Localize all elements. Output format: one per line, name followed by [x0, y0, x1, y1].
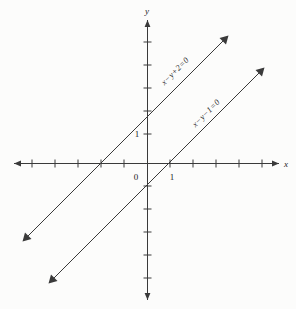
line-x-minus-y-plus-2: [23, 36, 229, 242]
x-axis-arrow-left: [14, 161, 21, 167]
y-axis-arrow-up: [145, 20, 151, 27]
line-1-segment: [25, 38, 226, 239]
line-1-equation-label: x−y+2=0: [158, 55, 191, 88]
graph-canvas: 0 1 1 x y x−y+2=0 x−y−1=0: [0, 0, 296, 309]
x-unit-tick-label: 1: [170, 172, 175, 182]
line-2-equation-label: x−y−1=0: [189, 97, 222, 130]
x-axis-label: x: [283, 159, 288, 169]
y-axis-arrow-down: [145, 293, 151, 300]
y-axis-label: y: [144, 6, 149, 16]
y-axis: [144, 20, 152, 300]
line-x-minus-y-minus-1: [49, 68, 265, 284]
line-2-segment: [51, 70, 262, 281]
coordinate-plane-figure: 0 1 1 x y x−y+2=0 x−y−1=0: [0, 0, 296, 309]
x-axis: [14, 160, 279, 168]
origin-label: 0: [134, 172, 139, 182]
y-unit-tick-label: 1: [135, 129, 140, 139]
x-axis-arrow-right: [272, 161, 279, 167]
